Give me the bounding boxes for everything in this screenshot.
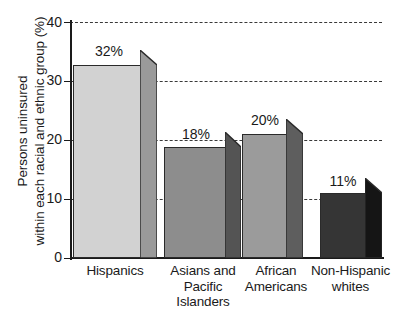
y-axis-line (70, 20, 72, 260)
y-tick-label-20: 20 (36, 132, 62, 146)
bar-african-americans[interactable] (242, 22, 303, 258)
bar-value-african-americans: 20% (242, 113, 288, 127)
bar-asians-pacific-islanders-front (164, 147, 226, 258)
bar-value-asians-pacific-islanders: 18% (166, 127, 226, 141)
bar-hispanics-side (140, 50, 157, 258)
bar-non-hispanic-whites[interactable] (320, 22, 382, 258)
x-label-asians-pacific-islanders-line-3: Islanders (149, 294, 257, 310)
bar-hispanics-front (73, 65, 141, 258)
y-axis-title: Persons uninsured within each racial and… (13, 6, 49, 256)
y-tick-label-0: 0 (36, 250, 62, 264)
bar-non-hispanic-whites-front (320, 193, 366, 258)
bar-african-americans-front (242, 134, 287, 258)
x-label-non-hispanic-whites-line-1: Non-Hispanic (303, 263, 398, 279)
y-tick-label-30: 30 (36, 73, 62, 87)
bar-asians-pacific-islanders-side (225, 132, 241, 258)
y-tick-label-40: 40 (36, 15, 62, 29)
chart-figure: Persons uninsured within each racial and… (0, 0, 398, 321)
x-label-non-hispanic-whites: Non-Hispanic whites (303, 263, 398, 294)
y-axis-title-line-1: Persons uninsured (14, 76, 31, 187)
bar-african-americans-side (286, 119, 303, 258)
bar-non-hispanic-whites-side (365, 178, 382, 258)
x-label-non-hispanic-whites-line-2: whites (303, 279, 398, 295)
bar-value-hispanics: 32% (76, 44, 142, 58)
bar-value-non-hispanic-whites: 11% (320, 174, 366, 188)
y-tick-label-10: 10 (36, 191, 62, 205)
